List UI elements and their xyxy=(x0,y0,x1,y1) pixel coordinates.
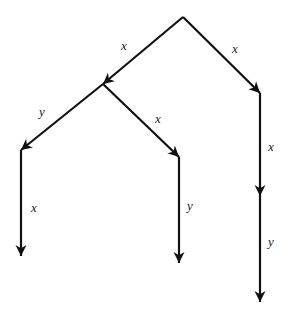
tree-diagram: xxyxxxyy xyxy=(0,0,290,317)
edges-layer xyxy=(21,17,260,302)
edge-label: y xyxy=(185,198,193,213)
edge-arrow-n_left-to-n_left_left xyxy=(21,84,103,150)
edge-label: x xyxy=(30,200,37,215)
edge-arrow-n_left-to-n_left_right xyxy=(103,84,179,157)
edge-label: x xyxy=(120,38,127,53)
edge-label: y xyxy=(37,104,45,119)
edge-arrow-root-to-n_left xyxy=(103,17,183,84)
edge-label: x xyxy=(267,139,274,154)
edge-arrow-root-to-n_right xyxy=(183,17,260,93)
edge-label: x xyxy=(154,111,161,126)
edge-label: x xyxy=(231,41,238,56)
edge-label: y xyxy=(266,234,274,249)
